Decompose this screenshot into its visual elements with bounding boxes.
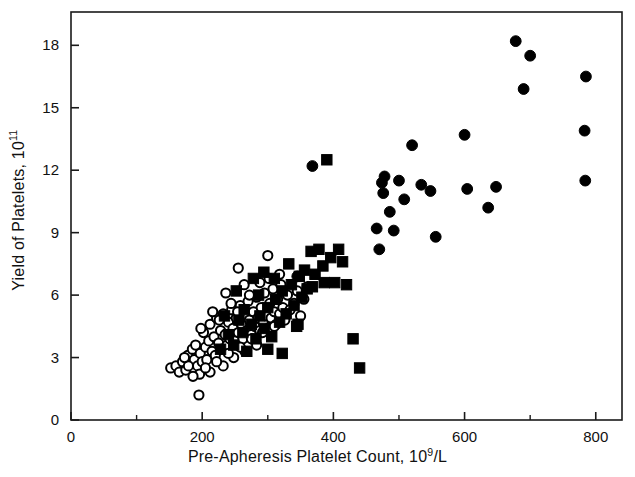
data-point-filled-square: [263, 344, 273, 354]
x-axis-tick-label: 800: [583, 428, 608, 445]
data-point-open-circle: [234, 263, 243, 272]
data-point-filled-square: [228, 340, 238, 350]
data-point-filled-square: [341, 279, 351, 289]
data-point-filled-square: [277, 348, 287, 358]
data-point-filled-square: [259, 267, 269, 277]
data-point-filled-circle: [307, 161, 318, 172]
x-axis-label: Pre-Apheresis Platelet Count, 109/L: [0, 446, 635, 466]
data-point-filled-circle: [483, 202, 494, 213]
data-point-filled-circle: [425, 186, 436, 197]
y-axis-tick-label: 18: [42, 36, 59, 53]
x-axis-label-suffix: /L: [433, 448, 447, 465]
data-point-filled-circle: [374, 244, 385, 255]
data-point-filled-square: [354, 363, 364, 373]
data-point-open-circle: [188, 372, 197, 381]
data-point-filled-circle: [292, 271, 303, 282]
data-point-filled-circle: [430, 231, 441, 242]
data-point-filled-circle: [399, 194, 410, 205]
data-point-open-circle: [208, 307, 217, 316]
data-point-open-circle: [180, 353, 189, 362]
data-point-filled-square: [293, 319, 303, 329]
x-axis-tick-label: 600: [452, 428, 477, 445]
data-point-open-circle: [245, 291, 254, 300]
data-point-filled-square: [322, 155, 332, 165]
plot-frame: [71, 12, 622, 420]
x-axis-tick-label: 200: [190, 428, 215, 445]
plot-canvas: 02004006008000369121518: [0, 0, 635, 477]
data-point-filled-circle: [459, 129, 470, 140]
y-axis-label-prefix: Yield of Platelets, 10: [10, 141, 27, 291]
data-point-open-circle: [212, 357, 221, 366]
y-axis-tick-label: 9: [51, 224, 59, 241]
data-point-filled-square: [223, 329, 233, 339]
data-point-filled-square: [319, 277, 329, 287]
data-point-filled-square: [248, 273, 258, 283]
data-point-filled-circle: [491, 181, 502, 192]
y-axis-tick-label: 6: [51, 286, 59, 303]
data-point-filled-circle: [384, 206, 395, 217]
data-point-filled-square: [239, 304, 249, 314]
data-point-filled-square: [333, 244, 343, 254]
data-point-open-circle: [263, 251, 272, 260]
data-point-filled-circle: [580, 175, 591, 186]
scatter-plot-figure: 02004006008000369121518 Yield of Platele…: [0, 0, 635, 477]
data-point-open-circle: [196, 324, 205, 333]
x-axis-tick-label: 0: [67, 428, 75, 445]
data-point-open-circle: [226, 299, 235, 308]
y-axis-tick-label: 3: [51, 349, 59, 366]
data-point-filled-circle: [581, 71, 592, 82]
data-point-filled-square: [329, 277, 339, 287]
data-point-filled-circle: [416, 179, 427, 190]
data-point-filled-square: [251, 334, 261, 344]
data-point-filled-circle: [388, 225, 399, 236]
data-point-filled-square: [348, 334, 358, 344]
y-axis-tick-label: 0: [51, 411, 59, 428]
y-axis-label-exponent: 11: [8, 129, 20, 140]
data-point-open-circle: [194, 390, 203, 399]
y-axis-label: Yield of Platelets, 1011: [4, 0, 32, 420]
data-point-filled-square: [267, 332, 277, 342]
data-point-filled-square: [242, 346, 252, 356]
y-axis-tick-label: 12: [42, 161, 59, 178]
data-point-filled-circle: [510, 36, 521, 47]
x-axis-tick-label: 400: [321, 428, 346, 445]
data-point-filled-circle: [394, 175, 405, 186]
data-point-open-circle: [201, 363, 210, 372]
data-point-filled-circle: [378, 188, 389, 199]
data-point-filled-square: [219, 311, 229, 321]
data-point-filled-square: [314, 244, 324, 254]
data-point-filled-circle: [379, 171, 390, 182]
y-axis-tick-label: 15: [42, 99, 59, 116]
data-point-filled-circle: [407, 140, 418, 151]
data-point-filled-square: [253, 290, 263, 300]
data-point-filled-square: [269, 273, 279, 283]
data-point-filled-circle: [518, 84, 529, 95]
data-point-filled-square: [231, 286, 241, 296]
data-point-filled-circle: [579, 125, 590, 136]
data-point-filled-square: [284, 259, 294, 269]
data-point-filled-square: [307, 282, 317, 292]
data-point-filled-circle: [525, 50, 536, 61]
data-point-filled-square: [337, 257, 347, 267]
data-point-filled-circle: [462, 184, 473, 195]
data-point-filled-square: [215, 344, 225, 354]
data-point-open-circle: [221, 288, 230, 297]
x-axis-label-prefix: Pre-Apheresis Platelet Count, 10: [188, 448, 427, 465]
data-point-filled-circle: [371, 223, 382, 234]
data-point-filled-square: [234, 315, 244, 325]
